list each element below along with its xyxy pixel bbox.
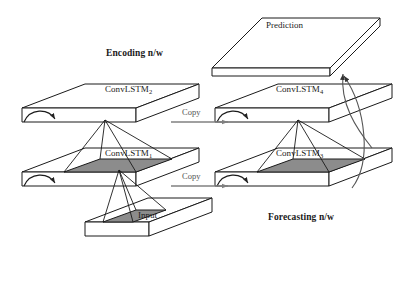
forecasting-network-label: Forecasting n/w [268, 213, 334, 223]
convlstm4-label-name: ConvLSTM [276, 84, 320, 94]
convlstm3-label: ConvLSTM3 [276, 149, 323, 158]
convlstm2-label-index: 2 [149, 88, 152, 95]
input-label: Input [138, 211, 157, 220]
slab-convlstm4-front [215, 108, 329, 122]
convlstm2-label: ConvLSTM2 [105, 85, 152, 94]
slab-convlstm2-front [22, 108, 136, 122]
convlstm3-label-name: ConvLSTM [276, 148, 320, 158]
convlstm1-label-name: ConvLSTM [105, 148, 149, 158]
copy-label-upper: Copy [182, 108, 200, 117]
figure-canvas [0, 0, 403, 284]
convlstm4-label: ConvLSTM4 [276, 85, 323, 94]
encoding-network-label: Encoding n/w [106, 49, 163, 59]
slab-input-front [85, 222, 149, 236]
convlstm2-label-name: ConvLSTM [105, 84, 149, 94]
prediction-label: Prediction [266, 21, 303, 30]
slab-convlstm3-front [215, 172, 329, 186]
convlstm1-label-index: 1 [149, 152, 152, 159]
convlstm1-label: ConvLSTM1 [105, 149, 152, 158]
copy-label-lower: Copy [182, 172, 200, 181]
slab-prediction-front [212, 68, 330, 76]
slab-convlstm1-front [22, 172, 136, 186]
convlstm-architecture-figure: Encoding n/w Forecasting n/w Prediction … [0, 0, 403, 284]
convlstm4-label-index: 4 [320, 88, 323, 95]
convlstm3-label-index: 3 [320, 152, 323, 159]
